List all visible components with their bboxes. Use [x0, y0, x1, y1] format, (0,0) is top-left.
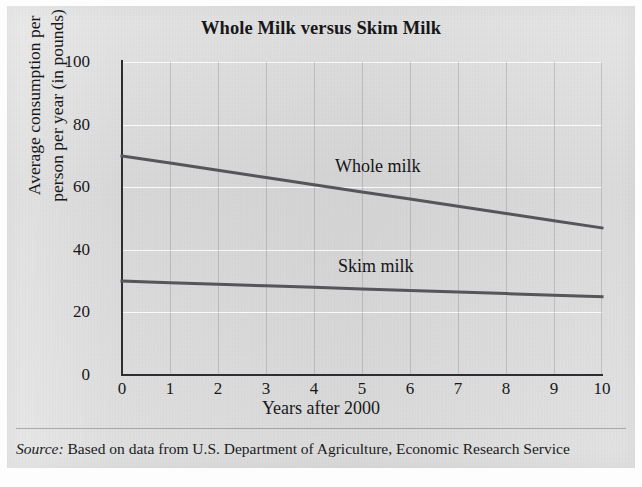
chart-title: Whole Milk versus Skim Milk: [0, 18, 642, 39]
y-tick-label-0: 0: [44, 365, 90, 385]
x-tick-label-3: 3: [246, 379, 286, 399]
source-divider: [16, 428, 626, 429]
source-text: Based on data from U.S. Department of Ag…: [68, 440, 570, 457]
x-tick-label-5: 5: [342, 379, 382, 399]
figure-page: Whole Milk versus Skim Milk Average cons…: [0, 0, 642, 487]
y-tick-label-40: 40: [44, 240, 90, 260]
x-tick-label-2: 2: [198, 379, 238, 399]
x-tick-label-7: 7: [438, 379, 478, 399]
x-tick-label-10: 10: [582, 379, 622, 399]
x-tick-label-4: 4: [294, 379, 334, 399]
y-tick-label-100: 100: [44, 52, 90, 72]
x-tick-label-9: 9: [534, 379, 574, 399]
y-tick-label-20: 20: [44, 302, 90, 322]
source-note: Source: Based on data from U.S. Departme…: [16, 440, 630, 458]
series-label-whole-milk: Whole milk: [335, 156, 420, 177]
x-axis-title: Years after 2000: [0, 398, 642, 419]
x-tick-label-0: 0: [102, 379, 142, 399]
x-tick-label-8: 8: [486, 379, 526, 399]
series-line-skim-milk: [122, 281, 602, 297]
plot-area: [122, 62, 602, 375]
y-tick-label-60: 60: [44, 177, 90, 197]
series-lines: [122, 62, 602, 375]
series-label-skim-milk: Skim milk: [338, 256, 414, 277]
y-axis-title-line1: Average consumption per: [23, 0, 46, 265]
x-tick-label-6: 6: [390, 379, 430, 399]
source-label: Source:: [16, 440, 64, 457]
x-tick-label-1: 1: [150, 379, 190, 399]
y-tick-label-80: 80: [44, 115, 90, 135]
